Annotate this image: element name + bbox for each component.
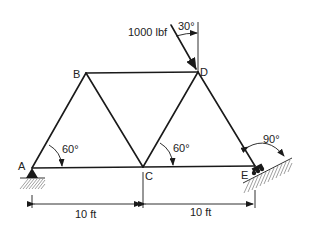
angle-arc-e: [248, 143, 284, 156]
ground-hatch-e: [244, 160, 292, 193]
pin-triangle-icon: [26, 168, 38, 178]
angle-label-e: 90°: [263, 133, 280, 145]
angle-arc-30: [176, 33, 197, 36]
node-label-c: C: [145, 170, 153, 182]
angle-label-c: 60°: [173, 142, 190, 154]
load-force: 1000 lbf 30°: [128, 20, 198, 72]
roller-support-e: [243, 158, 292, 193]
member-bc: [86, 73, 143, 167]
node-label-b: B: [73, 68, 80, 80]
node-label-a: A: [18, 160, 26, 172]
dimension-label-ac: 10 ft: [75, 208, 96, 220]
node-label-e: E: [241, 169, 248, 181]
dimension-label-ce: 10 ft: [190, 206, 211, 218]
load-angle-label: 30°: [178, 20, 195, 32]
load-label: 1000 lbf: [128, 26, 168, 38]
angle-arc-a: [49, 145, 62, 166]
angle-label-a: 60°: [62, 143, 79, 155]
member-ce: [143, 166, 255, 167]
ground-hatch-a: [20, 179, 45, 189]
truss-diagram: A B C D E 1000 lbf 30° 60° 60° 90°: [0, 0, 311, 234]
node-label-d: D: [200, 66, 208, 78]
incline-surface: [243, 158, 292, 183]
member-de: [198, 72, 255, 166]
member-cd: [143, 72, 198, 167]
member-ac: [32, 167, 143, 168]
member-bd: [86, 72, 198, 73]
dimension-lines: 10 ft 10 ft: [32, 172, 255, 220]
angle-arc-c: [160, 143, 173, 165]
